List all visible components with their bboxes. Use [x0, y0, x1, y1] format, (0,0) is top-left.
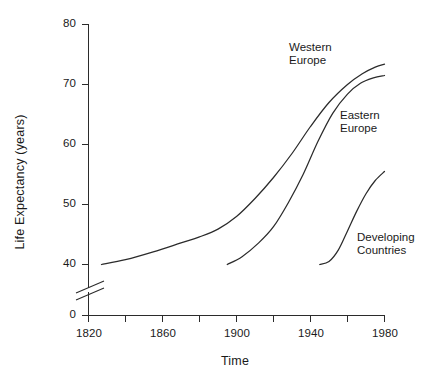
y-tick-label-60: 60	[48, 137, 76, 149]
x-tick-label-1860: 1860	[136, 327, 190, 339]
series-label-eastern-europe: Eastern Europe	[340, 109, 380, 134]
series-label-western-europe: Western Europe	[289, 41, 332, 66]
x-tick-label-1820: 1820	[62, 327, 116, 339]
x-tick-label-1940: 1940	[284, 327, 338, 339]
x-axis-title: Time	[150, 354, 320, 368]
axis-break-slash-lower	[76, 288, 104, 300]
y-tick-label-40: 40	[48, 257, 76, 269]
y-axis-title: Life Expectancy (years)	[13, 92, 27, 272]
x-tick-label-1980: 1980	[358, 327, 412, 339]
series-line-western-europe	[101, 64, 384, 264]
series-label-developing-countries: Developing Countries	[357, 231, 415, 256]
life-expectancy-chart: 80 70 60 50 40 0 1820 1860 1900 1940 198…	[0, 0, 434, 389]
y-tick-label-80: 80	[48, 17, 76, 29]
y-axis-title-wrap: Life Expectancy (years)	[0, 0, 34, 389]
axis-break-slash-upper	[76, 281, 104, 293]
y-tick-label-0: 0	[48, 308, 76, 320]
y-tick-label-70: 70	[48, 77, 76, 89]
x-tick-label-1900: 1900	[210, 327, 264, 339]
y-tick-label-50: 50	[48, 197, 76, 209]
